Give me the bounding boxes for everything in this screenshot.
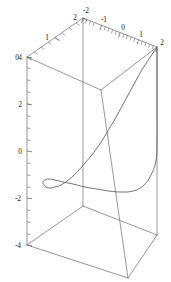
y-tick-minor (145, 43, 146, 47)
y-tick-label-1: 1 (139, 30, 143, 39)
z-tick-minor (27, 234, 31, 235)
x-tick-minor (41, 47, 44, 49)
y-tick-minor (112, 30, 113, 34)
y-tick-minor (141, 41, 142, 45)
z-tick-label-2: 2 (18, 100, 22, 109)
z-tick-label-4: 4 (18, 53, 22, 62)
y-axis-ticks (82, 18, 158, 52)
y-tick-minor (126, 35, 127, 39)
z-tick-minor (27, 222, 31, 223)
z-tick-minor (27, 210, 31, 211)
y-tick-minor (152, 46, 153, 50)
y-tick-label-neg1: -1 (101, 15, 107, 24)
z-tick-neg4 (27, 245, 32, 246)
y-tick-minor (130, 37, 131, 41)
box-edge-bottom-right-front (128, 235, 157, 278)
box-edge-vertical-front (101, 90, 128, 278)
z-tick-neg2 (27, 198, 32, 199)
z-tick-label-neg2: -2 (15, 194, 21, 203)
y-tick-label-2: 2 (160, 38, 164, 47)
y-tick-minor (123, 34, 124, 38)
y-tick-neg1 (100, 25, 101, 30)
y-tick-minor (134, 38, 135, 42)
y-tick-minor (104, 27, 105, 31)
plot-figure: 0 1 2 -2 -1 0 1 2 4 2 0 -2 -4 (0, 0, 171, 282)
x-tick-minor (48, 42, 51, 44)
x-tick-minor (62, 33, 65, 35)
z-axis-ticks (27, 57, 32, 246)
z-tick-minor (27, 163, 31, 164)
y-tick-label-0: 0 (121, 23, 125, 32)
z-tick-minor (27, 140, 31, 141)
y-tick-minor (93, 22, 94, 26)
y-tick-minor (115, 31, 116, 35)
z-tick-minor (27, 80, 31, 81)
z-tick-minor (27, 128, 31, 129)
z-tick-label-0: 0 (18, 147, 22, 156)
y-tick-0 (119, 33, 120, 38)
x-tick-minor (69, 28, 72, 30)
x-axis-ticks (27, 18, 88, 60)
y-tick-label-neg2: -2 (83, 6, 89, 15)
z-tick-0 (27, 151, 32, 152)
parametric-curve (43, 47, 157, 192)
y-tick-1 (137, 40, 138, 45)
x-tick-label-1: 1 (45, 33, 49, 42)
z-tick-minor (27, 92, 31, 93)
x-tick-label-2: 2 (73, 13, 77, 22)
y-tick-minor (89, 21, 90, 25)
plot-canvas: 0 1 2 -2 -1 0 1 2 4 2 0 -2 -4 (0, 0, 171, 282)
x-tick-minor (76, 23, 79, 25)
z-tick-label-neg4: -4 (15, 241, 21, 250)
z-tick-2 (27, 104, 32, 105)
z-tick-minor (27, 68, 31, 69)
z-tick-minor (27, 175, 31, 176)
z-tick-minor (27, 116, 31, 117)
y-tick-minor (149, 44, 150, 48)
x-tick-minor (34, 52, 37, 54)
box-edge-bottom-left-back (27, 206, 83, 245)
y-tick-minor (108, 28, 109, 32)
bounding-box-wireframe (27, 18, 157, 278)
box-edge-top-front-left (27, 57, 101, 90)
x-tick-1 (55, 38, 60, 41)
z-tick-minor (27, 187, 31, 188)
box-edge-top-right-front (101, 47, 157, 90)
box-edge-bottom-front-left (27, 245, 128, 278)
